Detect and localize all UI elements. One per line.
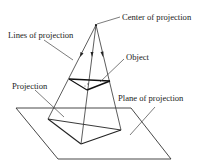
center-point xyxy=(95,24,97,26)
object-label: Object xyxy=(126,52,150,62)
object-shape xyxy=(69,79,110,90)
projection-lines xyxy=(48,25,121,144)
center-of-projection-label: Center of projection xyxy=(122,12,192,22)
projection-diagram: Center of projection Lines of projection… xyxy=(0,0,211,168)
object-dot xyxy=(84,85,85,86)
projection-shape xyxy=(48,119,121,144)
projection-label: Projection xyxy=(12,81,48,91)
lines-of-projection-label: Lines of projection xyxy=(8,30,74,40)
object-dot xyxy=(87,83,88,84)
plane-of-projection-label: Plane of projection xyxy=(118,93,184,103)
projection-plane xyxy=(16,108,171,159)
